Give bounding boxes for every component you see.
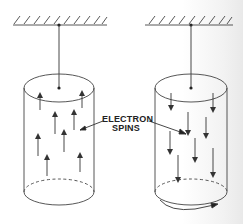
diagram-canvas: [0, 0, 243, 224]
ceiling-right: [145, 16, 233, 25]
electron-spins-label: ELECTRON SPINS: [102, 115, 150, 133]
spin-arrows-down: [170, 93, 213, 180]
right-panel: [145, 16, 233, 210]
attachment-point-right: [189, 86, 192, 89]
spin-arrows-up: [38, 93, 82, 176]
label-line-2: SPINS: [102, 124, 150, 133]
cylinder-left: [24, 74, 94, 205]
left-panel: [13, 16, 107, 205]
cylinder-right: [155, 74, 227, 205]
ceiling-left: [13, 16, 107, 25]
attachment-point-left: [57, 86, 60, 89]
